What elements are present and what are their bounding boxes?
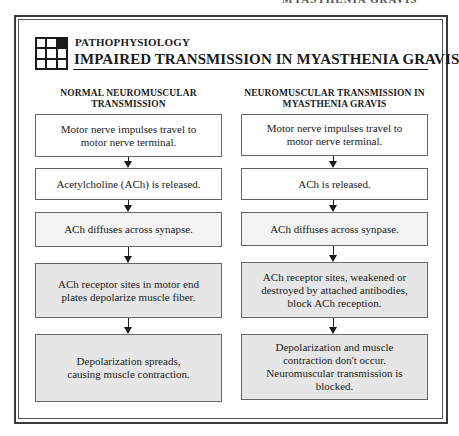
grid-cell-filled <box>58 39 66 47</box>
grid-cell <box>47 60 55 68</box>
left-column-heading: NORMAL NEUROMUSCULAR TRANSMISSION <box>35 88 222 110</box>
grid-icon <box>35 37 68 70</box>
arrow-down-icon <box>329 156 339 168</box>
right-step-1: Motor nerve impulses travel to motor ner… <box>241 114 428 156</box>
left-step-4: ACh receptor sites in motor end plates d… <box>35 263 222 318</box>
step-text: Acetylcholine (ACh) is released. <box>56 178 200 191</box>
grid-cell <box>37 49 45 57</box>
grid-cell <box>58 60 66 68</box>
diagram-title: IMPAIRED TRANSMISSION IN MYASTHENIA GRAV… <box>74 51 459 68</box>
arrow-down-icon <box>124 200 134 212</box>
arrow-down-icon <box>124 157 134 168</box>
right-heading-line1: NEUROMUSCULAR TRANSMISSION IN <box>241 88 428 99</box>
arrow-down-icon <box>329 246 339 262</box>
grid-cell <box>58 49 66 57</box>
left-heading-line1: NORMAL NEUROMUSCULAR <box>35 88 222 99</box>
right-heading-line2: MYASTHENIA GRAVIS <box>241 99 428 110</box>
arrow-down-icon <box>124 247 134 263</box>
step-text: Motor nerve impulses travel to motor ner… <box>50 123 207 149</box>
arrow-down-icon <box>329 200 339 212</box>
step-text: ACh diffuses across synpase. <box>270 223 399 236</box>
step-text: Depolarization and muscle contraction do… <box>264 341 405 393</box>
right-step-3: ACh diffuses across synpase. <box>241 212 428 246</box>
step-text: ACh receptor sites in motor end plates d… <box>46 278 211 304</box>
left-step-2: Acetylcholine (ACh) is released. <box>35 168 222 200</box>
arrow-down-icon <box>124 318 134 334</box>
left-step-3: ACh diffuses across synapse. <box>35 212 222 247</box>
step-text: Depolarization spreads, causing muscle c… <box>64 355 193 381</box>
step-text: ACh diffuses across synapse. <box>64 223 193 236</box>
step-text: Motor nerve impulses travel to motor ner… <box>256 122 413 148</box>
section-kicker: PATHOPHYSIOLOGY <box>75 36 190 48</box>
left-step-5: Depolarization spreads, causing muscle c… <box>35 334 222 402</box>
right-column-heading: NEUROMUSCULAR TRANSMISSION IN MYASTHENIA… <box>241 88 428 110</box>
right-step-5: Depolarization and muscle contraction do… <box>241 334 428 400</box>
left-heading-line2: TRANSMISSION <box>35 99 222 110</box>
step-text: ACh is released. <box>298 178 370 191</box>
step-text: ACh receptor sites, weakened or destroye… <box>260 271 409 310</box>
right-step-4: ACh receptor sites, weakened or destroye… <box>241 262 428 318</box>
grid-cell <box>47 49 55 57</box>
grid-cell <box>37 39 45 47</box>
left-step-1: Motor nerve impulses travel to motor ner… <box>35 114 222 157</box>
title-underline <box>73 69 428 70</box>
grid-cell <box>37 60 45 68</box>
right-step-2: ACh is released. <box>241 168 428 200</box>
running-head: MYASTHENIA GRAVIS <box>282 0 417 5</box>
grid-cell <box>47 39 55 47</box>
arrow-down-icon <box>329 318 339 334</box>
